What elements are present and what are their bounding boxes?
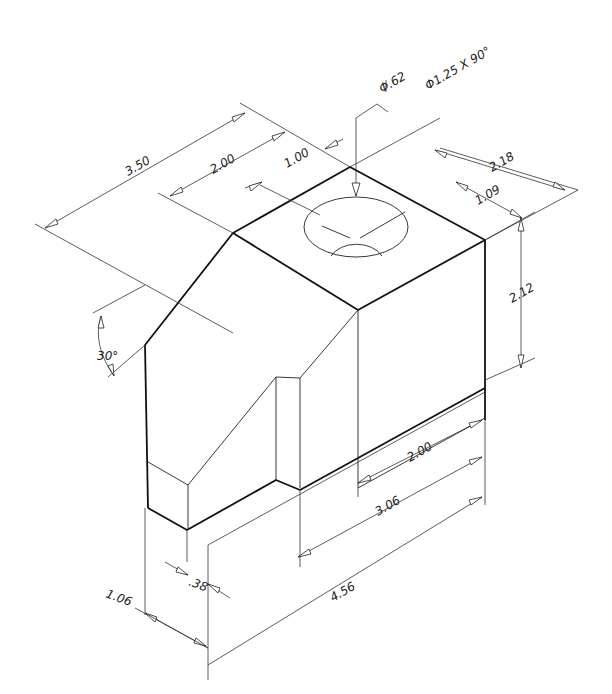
isometric-part-drawing: Φ.62 Φ1.25 X 90° 3.50 2.00 1.00 2.18 1.0… [0,0,612,694]
dim-upper-height: 2.12 [507,280,537,305]
dim-top-step-depth: 2.00 [208,151,238,177]
countersunk-hole [304,197,408,257]
dim-chamfer-angle: 30° [97,349,118,363]
dim-overall-length: 4.56 [328,579,358,605]
dim-lower-step-length: 2.00 [405,439,435,465]
dimension-labels: Φ.62 Φ1.25 X 90° 3.50 2.00 1.00 2.18 1.0… [97,44,537,609]
part-outline [145,167,485,530]
callout-thru-diameter: Φ.62 [377,69,409,95]
dim-hole-offset-depth: 1.00 [282,145,312,171]
dim-base-height: 1.06 [104,587,134,609]
dim-slot-width: .38 [187,575,210,595]
dim-hole-offset-width: 1.09 [473,182,503,207]
dim-slot-length: 3.06 [373,493,403,519]
callout-countersink: Φ1.25 X 90° [423,44,493,93]
